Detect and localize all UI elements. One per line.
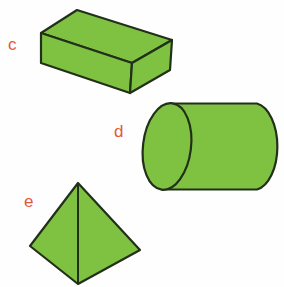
rectangular-prism <box>41 10 172 93</box>
pyramid <box>30 183 140 284</box>
shapes-figure: c d e <box>0 0 284 287</box>
pyramid-outline <box>30 183 140 284</box>
label-e: e <box>24 192 33 211</box>
cylinder <box>138 100 277 192</box>
label-c: c <box>8 35 17 54</box>
shapes-canvas: c d e <box>0 0 284 287</box>
label-d: d <box>114 122 123 141</box>
